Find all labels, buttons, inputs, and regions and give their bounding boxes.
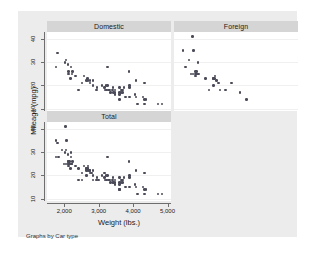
y-tick: [41, 62, 44, 63]
x-tick-label: 4,000: [118, 208, 148, 214]
x-tick: [168, 204, 169, 207]
data-point: [217, 82, 220, 85]
panel-header-foreign: Foreign: [174, 21, 298, 32]
data-point: [92, 84, 95, 87]
data-point: [128, 86, 131, 89]
data-point: [67, 153, 70, 156]
y-tick: [41, 85, 44, 86]
data-point: [135, 79, 138, 82]
data-point: [81, 172, 84, 175]
y-tick: [41, 129, 44, 130]
gridline: [47, 85, 171, 86]
data-point: [70, 156, 73, 159]
gridline: [47, 175, 171, 176]
data-point: [69, 167, 72, 170]
data-point: [55, 66, 58, 69]
data-point: [97, 179, 100, 182]
y-tick: [41, 39, 44, 40]
data-point: [88, 169, 91, 172]
plot-area-domestic: [47, 32, 171, 111]
data-point: [67, 73, 70, 76]
y-tick-label: 30: [30, 55, 36, 69]
data-point: [64, 61, 67, 64]
x-tick: [64, 204, 65, 207]
data-point: [118, 188, 121, 191]
data-point: [128, 160, 131, 163]
data-point: [85, 174, 88, 177]
data-point: [128, 176, 131, 179]
data-point: [219, 89, 222, 92]
panel-title: Total: [101, 113, 116, 120]
data-point: [55, 139, 58, 142]
data-point: [106, 156, 109, 159]
x-tick-label: 5,000: [153, 208, 183, 214]
data-point: [204, 77, 207, 80]
y-tick: [41, 152, 44, 153]
data-point: [192, 49, 195, 52]
data-point: [89, 79, 92, 82]
data-point: [103, 176, 106, 179]
data-point: [64, 151, 67, 154]
data-point: [77, 167, 80, 170]
data-point: [208, 89, 211, 92]
data-point: [239, 91, 242, 94]
data-point: [77, 179, 80, 182]
gridline: [47, 109, 171, 110]
panel-title: Foreign: [224, 23, 248, 30]
data-point: [114, 93, 117, 96]
y-tick-label: 10: [30, 102, 36, 116]
data-point: [118, 93, 121, 96]
y-tick: [41, 199, 44, 200]
data-point: [95, 89, 98, 92]
data-point: [128, 96, 131, 99]
data-point: [161, 193, 164, 196]
data-point: [70, 66, 73, 69]
data-point: [71, 70, 74, 73]
data-point: [81, 179, 84, 182]
y-tick: [41, 109, 44, 110]
panel-header-total: Total: [47, 111, 171, 122]
data-point: [124, 186, 127, 189]
data-point: [92, 79, 95, 82]
data-point: [143, 188, 146, 191]
data-point: [74, 75, 77, 78]
data-point: [135, 169, 138, 172]
data-point: [128, 70, 131, 73]
graph-canvas: Mileage (mpg) Weight (lbs.) Graphs by Ca…: [0, 0, 315, 255]
x-tick: [99, 204, 100, 207]
data-point: [161, 103, 164, 106]
graph-region: Mileage (mpg) Weight (lbs.) Graphs by Ca…: [18, 11, 297, 237]
gridline: [47, 199, 171, 200]
x-axis-title: Weight (lbs.): [44, 219, 194, 227]
y-tick: [41, 175, 44, 176]
data-point: [143, 82, 146, 85]
data-point: [92, 174, 95, 177]
data-point: [81, 82, 84, 85]
data-point: [65, 139, 68, 142]
x-tick-label: 3,000: [84, 208, 114, 214]
data-point: [77, 89, 80, 92]
gridline: [174, 62, 298, 63]
gridline: [174, 39, 298, 40]
data-point: [136, 193, 139, 196]
data-point: [143, 103, 146, 106]
x-axis-line: [47, 203, 171, 204]
y-axis-line: [44, 122, 45, 201]
data-point: [188, 59, 191, 62]
data-point: [118, 98, 121, 101]
data-point: [89, 82, 92, 85]
data-point: [118, 183, 121, 186]
data-point: [184, 66, 187, 69]
data-point: [191, 35, 194, 38]
gridline: [47, 39, 171, 40]
data-point: [128, 186, 131, 189]
y-tick-label: 10: [30, 192, 36, 206]
data-point: [121, 91, 124, 94]
data-point: [56, 52, 59, 55]
data-point: [143, 172, 146, 175]
y-tick-label: 20: [30, 168, 36, 182]
data-point: [106, 66, 109, 69]
data-point: [212, 84, 215, 87]
data-point: [215, 79, 218, 82]
x-tick-label: 2,000: [49, 208, 79, 214]
